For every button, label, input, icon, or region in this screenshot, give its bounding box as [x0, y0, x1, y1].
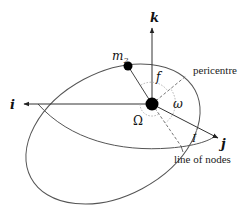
radius-vector: [128, 66, 152, 104]
true-anomaly-arc: [141, 82, 167, 90]
j-axis: [152, 104, 218, 138]
pericentre-label: pericentre: [193, 64, 237, 76]
line-of-nodes-label: line of nodes: [174, 153, 231, 165]
reference-plane-arc: [38, 104, 214, 149]
j-axis-label: j: [218, 136, 226, 151]
orbital-elements-diagram: k i j m2 Ω ω f I pericentre line of node…: [0, 0, 248, 212]
argument-of-pericentre-label: ω: [173, 97, 183, 111]
true-anomaly-label: f: [155, 70, 163, 84]
longitude-of-node-label: Ω: [133, 114, 143, 128]
k-axis-label: k: [150, 10, 159, 25]
m2-label: m2: [112, 49, 128, 65]
inclination-label: I: [191, 132, 197, 145]
i-axis-label: i: [10, 97, 15, 112]
central-mass: [146, 98, 159, 111]
